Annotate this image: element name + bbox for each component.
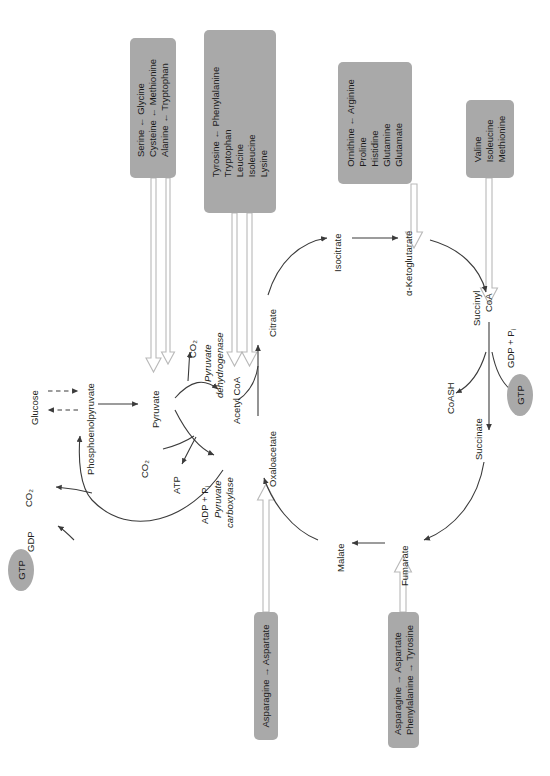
co2-pepck-text: CO₂ (23, 489, 34, 507)
label-malate: Malate (336, 543, 347, 572)
hollow-arrow-tyrosine-to-acetylcoa (227, 213, 257, 366)
label-phosphoenolpyruvate: Phosphoenolpyruvate (86, 383, 97, 475)
box-serine-group-text: Serine ← Glycine Cysteine ← Methionine A… (135, 59, 171, 157)
label-coash: CoASH (446, 382, 457, 414)
oval-gtp-left: GTP (8, 549, 34, 591)
label-acetyl-coa: Acetyl CoA (232, 377, 243, 424)
arrow-citrate-to-isocitrate (268, 238, 327, 295)
box-glutamate-group: Ornithine ← Arginine Proline Histidine G… (338, 62, 412, 184)
box-asparagine-aspartate: Asparagine → Aspartate (254, 612, 278, 740)
label-co2-pdh: CO₂ (188, 340, 199, 358)
label-pyruvate: Pyruvate (151, 391, 162, 429)
label-succinyl-coa-line1: Succinyl (472, 291, 483, 326)
label-glucose: Glucose (30, 390, 41, 425)
label-atp: ATP (172, 476, 183, 494)
arrow-pepck-gtp-to-gdp (58, 526, 74, 540)
box-tyrosine-group: Tyrosine ← Phenylalanine Tryptophan Leuc… (204, 30, 276, 213)
label-oxaloacetate: Oxaloacetate (268, 431, 279, 487)
label-alpha-ketoglutarate: α-Ketoglutarate (404, 231, 415, 296)
label-enzyme-pdh-line1: Pyruvate (203, 345, 214, 383)
label-co2-pc: CO₂ (140, 460, 151, 478)
oval-gtp-right: GTP (507, 374, 533, 416)
arrow-pyruvate-to-acetylcoa (175, 382, 218, 398)
label-succinyl-coa-line2: CoA (484, 294, 495, 312)
hollow-arrow-serine-to-pyruvate (146, 178, 175, 372)
label-enzyme-pc-line2: carboxylase (225, 477, 236, 528)
arrow-pyruvate-to-oxaloacetate (175, 410, 214, 455)
gdp-pi-text: GDP + P (505, 330, 516, 368)
label-enzyme-pdh-line2: dehydrogenase (215, 333, 226, 399)
label-gdp-pi: GDP + Pi (506, 329, 518, 368)
arrow-pc-atp-input (182, 437, 196, 464)
box-valine-group-text: Valine Isoleucine Methionine (472, 116, 508, 162)
label-fumarate: Fumarate (400, 545, 411, 586)
co2-pdh-text: CO₂ (187, 340, 198, 358)
adp-pi-text: ADP + P (199, 487, 210, 524)
gdp-pi-subscript: i (510, 329, 517, 331)
box-serine-group: Serine ← Glycine Cysteine ← Methionine A… (130, 38, 176, 178)
adp-pi-subscript: i (204, 486, 211, 488)
label-enzyme-pc-line1: Pyruvate (213, 481, 224, 519)
box-asparagine-phenylalanine: Asparagine → Aspartate Phenylalanine → T… (388, 612, 419, 748)
label-adp-pi: ADP + Pi (200, 486, 212, 524)
box-glutamate-group-text: Ornithine ← Arginine Proline Histidine G… (345, 79, 405, 167)
hollow-arrow-aspartate-to-oxaloacetate (258, 484, 275, 612)
box-tyrosine-group-text: Tyrosine ← Phenylalanine Tryptophan Leuc… (210, 66, 270, 176)
oval-gtp-right-label: GTP (515, 385, 526, 405)
label-co2-pepck: CO₂ (24, 489, 35, 507)
arrow-malate-to-oxaloacetate (264, 478, 318, 540)
arrow-pc-co2-input (163, 436, 194, 449)
pathway-diagram-canvas: Serine ← Glycine Cysteine ← Methionine A… (0, 0, 550, 776)
box-valine-group: Valine Isoleucine Methionine (466, 100, 514, 178)
co2-pc-text: CO₂ (139, 460, 150, 478)
label-isocitrate: Isocitrate (333, 233, 344, 272)
arrow-succinylcoa-coash-release (456, 352, 486, 393)
arrow-pepck-co2-release (56, 487, 92, 493)
hollow-arrow-valine-to-succinylcoa (481, 178, 498, 304)
arrow-ketoglutarate-to-succinylcoa (430, 240, 486, 292)
box-asparagine-phenylalanine-text: Asparagine → Aspartate Phenylalanine → T… (392, 625, 416, 735)
label-citrate: Citrate (268, 309, 279, 337)
arrow-succinate-to-fumarate (424, 462, 484, 540)
oval-gtp-left-label: GTP (16, 560, 27, 580)
label-gdp-left: GDP (26, 531, 37, 552)
box-asparagine-aspartate-text: Asparagine → Aspartate (260, 625, 272, 728)
label-succinate: Succinate (474, 418, 485, 460)
